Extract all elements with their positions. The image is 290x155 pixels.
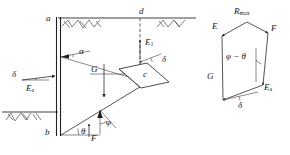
point-label-d: d bbox=[139, 7, 144, 16]
point-label-c: c bbox=[143, 70, 147, 79]
polygon-angle-label-delta: δ bbox=[238, 101, 242, 110]
angle-label-delta-wall: δ bbox=[12, 70, 16, 79]
polygon-label-E: E bbox=[212, 22, 218, 31]
polygon-label-phi-minus-theta: φ − θ bbox=[226, 52, 246, 61]
force-label-F: F bbox=[91, 134, 97, 143]
polygon-label-F: F bbox=[271, 24, 277, 33]
polygon-label-G: G bbox=[207, 72, 214, 81]
retaining-wall bbox=[57, 17, 61, 136]
figure-root: a b c d Ea G E1 F α δ δ θ φ E Rmax F Ea … bbox=[0, 0, 290, 155]
angle-label-theta: θ bbox=[81, 127, 85, 136]
point-label-a: a bbox=[46, 14, 51, 23]
angle-label-delta-anchor: δ bbox=[162, 55, 166, 64]
upper-ground-surface bbox=[58, 18, 196, 28]
polygon-label-Rmax-sub: max bbox=[240, 10, 250, 16]
polygon-label-Ea: Ea bbox=[264, 83, 272, 93]
angle-label-phi: φ bbox=[106, 118, 111, 127]
point-label-b: b bbox=[45, 128, 50, 137]
force-label-E1-sub: 1 bbox=[151, 41, 154, 47]
lower-ground-surface bbox=[2, 112, 58, 121]
angle-label-alpha: α bbox=[79, 47, 84, 56]
force-label-Ea-wall: Ea bbox=[26, 84, 34, 94]
force-label-G: G bbox=[91, 65, 98, 74]
active-pressure-Ea bbox=[22, 76, 55, 80]
alpha-angle-marker bbox=[61, 51, 90, 58]
polygon-label-Rmax: Rmax bbox=[234, 7, 250, 17]
force-label-E1: E1 bbox=[145, 38, 154, 48]
force-polygon-shape bbox=[222, 22, 268, 100]
polygon-label-Ea-sub: a bbox=[270, 86, 273, 92]
force-label-Ea-wall-sub: a bbox=[32, 87, 35, 93]
